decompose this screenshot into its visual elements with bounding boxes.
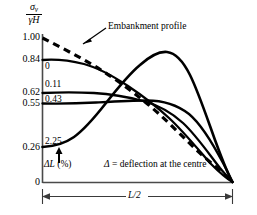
delta-l-percent-suffix: (%) — [57, 159, 71, 169]
y-tick-label-1-00: 1.00 — [8, 32, 40, 42]
curve-label-2-25: 2.25 — [45, 137, 62, 147]
y-tick-label-0-84: 0.84 — [8, 54, 40, 64]
embankment-profile-label: Embankment profile — [108, 22, 186, 32]
half-span-arrow-left — [42, 193, 50, 200]
delta-symbol: Δ — [104, 159, 110, 169]
half-span-label: L/2 — [128, 191, 141, 201]
curve-label-0: 0 — [45, 62, 50, 72]
delta-l-percent-label: ΔL (%) — [44, 160, 71, 170]
y-tick-label-0: 0 — [8, 177, 40, 187]
figure-container: σv γH 1.00 0.84 0.62 0.55 0.26 0 0 0.11 … — [0, 0, 257, 215]
half-span-arrow-right — [225, 193, 233, 200]
y-axis-sigma-subscript: v — [35, 6, 38, 14]
y-tick-label-0-62: 0.62 — [8, 87, 40, 97]
delta-l-arrow-head — [56, 147, 63, 154]
delta-definition-label: Δ = deflection at the centre — [104, 160, 206, 170]
y-tick-label-0-55: 0.55 — [8, 98, 40, 108]
y-tick-label-0-26: 0.26 — [8, 142, 40, 152]
curve-label-0-11: 0.11 — [45, 80, 61, 90]
curve-label-0-43: 0.43 — [45, 95, 62, 105]
delta-l-symbol: ΔL — [44, 159, 55, 169]
y-axis-gamma-h: γH — [26, 15, 41, 26]
delta-definition-text: = deflection at the centre — [112, 159, 207, 169]
y-axis-title: σv γH — [14, 2, 54, 26]
